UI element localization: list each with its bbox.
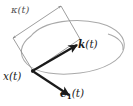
k-vector-argument: (t) (85, 38, 97, 50)
position-label: x(t) (3, 71, 21, 82)
e1-vector-argument: (t) (72, 87, 84, 99)
e1-vector-symbol: e (60, 87, 67, 99)
bracket-right-leg (61, 6, 80, 39)
curvature-label: κ(t) (11, 5, 29, 15)
curve-tail-upper (108, 34, 123, 50)
e1-vector-label: e1(t) (60, 88, 84, 100)
position-argument: (t) (9, 70, 21, 82)
bracket-left-leg (13, 38, 33, 71)
k-vector-arrow (34, 45, 77, 70)
curvature-bracket (13, 6, 80, 71)
base-point-marker (31, 69, 35, 73)
curvature-argument: (t) (18, 4, 30, 15)
curve-diagram-figure: κ(t) k(t) x(t) e1(t) (0, 0, 133, 106)
k-vector-label: k(t) (78, 39, 98, 50)
